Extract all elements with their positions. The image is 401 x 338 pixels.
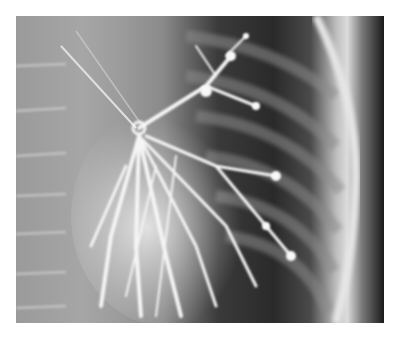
spine <box>16 64 66 308</box>
radiograph-illustration <box>16 16 384 323</box>
xray-image <box>16 16 384 323</box>
